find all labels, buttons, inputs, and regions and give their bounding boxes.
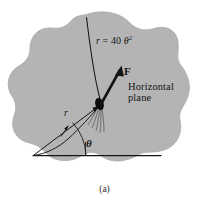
horizontal-plane-label-line2: plane — [128, 92, 174, 103]
horizontal-plane-label: Horizontal plane — [128, 81, 174, 104]
angle-label: θ — [86, 138, 92, 150]
equation-exponent: 2 — [129, 34, 133, 42]
equation-label: r = 40 θ2 — [96, 35, 132, 47]
horizontal-plane-label-line1: Horizontal — [128, 81, 174, 92]
equation-equals: = 40 — [103, 35, 122, 46]
force-label: F — [124, 66, 131, 78]
physics-diagram-svg — [0, 0, 209, 204]
figure-caption: (a) — [0, 184, 209, 194]
figure-container: r = 40 θ2 F Horizontal plane r θ (a) — [0, 0, 209, 204]
radius-label: r — [64, 108, 68, 119]
equation-variable: r — [96, 35, 100, 46]
